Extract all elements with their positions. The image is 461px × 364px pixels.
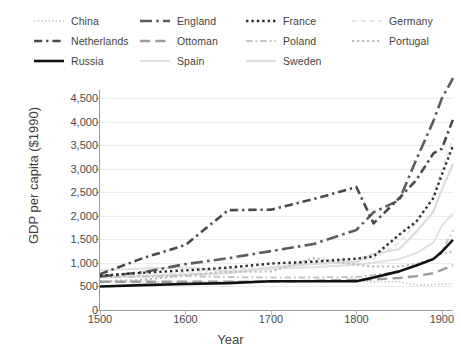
- series-line-england: [100, 78, 453, 276]
- y-tick-label: 2,000: [52, 210, 98, 222]
- x-tick-label: 1600: [173, 313, 197, 325]
- x-tick-label: 1500: [88, 313, 112, 325]
- y-tick-label: 4,500: [52, 92, 98, 104]
- chart-root: ChinaEnglandFranceGermanyNetherlandsOtto…: [0, 0, 461, 364]
- y-tick-label: 1,000: [52, 257, 98, 269]
- y-tick-label: 1,500: [52, 233, 98, 245]
- series-line-sweden: [100, 164, 453, 277]
- y-axis-tick-labels: 05001,0001,5002,0002,5003,0003,5004,0004…: [52, 0, 98, 364]
- series-line-germany: [100, 138, 453, 277]
- y-tick-label: 2,500: [52, 186, 98, 198]
- y-axis-title: GDP per capita ($1990): [26, 81, 41, 271]
- y-tick-label: 3,500: [52, 139, 98, 151]
- x-tick-label: 1800: [344, 313, 368, 325]
- x-axis-tick-labels: 15001600170018001900: [0, 313, 461, 329]
- x-tick-label: 1900: [430, 313, 454, 325]
- y-tick-label: 500: [52, 280, 98, 292]
- series-line-spain: [100, 213, 453, 271]
- x-axis-title: Year: [0, 332, 461, 347]
- x-tick-label: 1700: [259, 313, 283, 325]
- y-tick-label: 4,000: [52, 116, 98, 128]
- plot-area: 05001,0001,5002,0002,5003,0003,5004,0004…: [0, 0, 461, 364]
- y-tick-label: 3,000: [52, 163, 98, 175]
